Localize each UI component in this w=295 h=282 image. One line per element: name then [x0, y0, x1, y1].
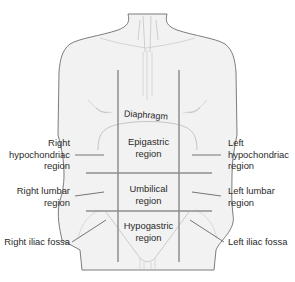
label-left-lumbar: Left lumbar region	[228, 185, 275, 208]
label-hypogastric: Hypogastric region	[118, 220, 179, 243]
label-left-hypochondriac: Left hypochondriac region	[228, 137, 289, 172]
abdominal-regions-diagram: Diaphragm Right hypochondriac region Epi…	[0, 0, 295, 282]
label-left-iliac-fossa: Left iliac fossa	[228, 236, 287, 248]
label-right-iliac-fossa: Right iliac fossa	[4, 236, 70, 248]
label-epigastric: Epigastric region	[118, 136, 179, 159]
label-umbilical: Umbilical region	[118, 183, 179, 206]
label-right-lumbar: Right lumbar region	[17, 185, 70, 208]
label-right-hypochondriac: Right hypochondriac region	[9, 137, 70, 172]
